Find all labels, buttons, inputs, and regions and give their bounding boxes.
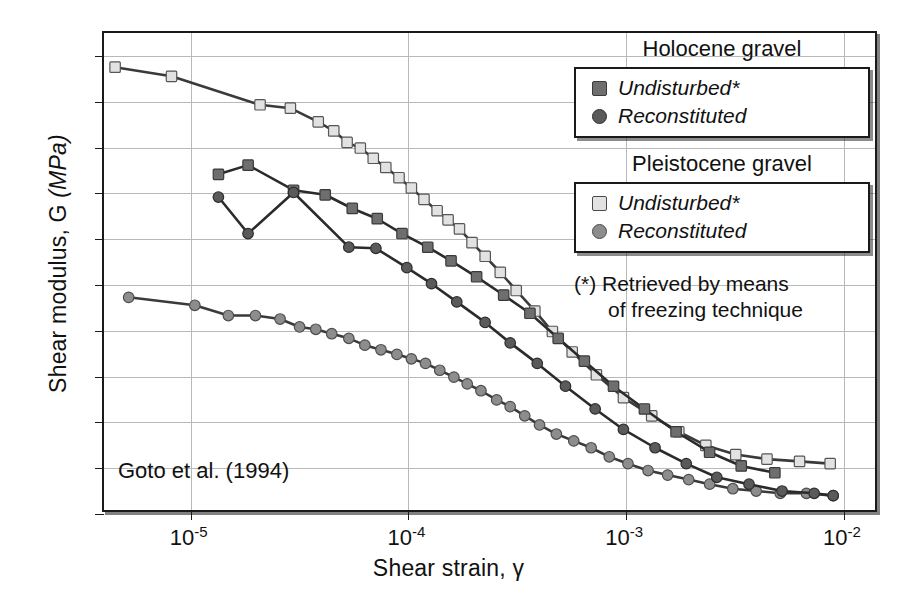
legend-group2-box: Undisturbed* Reconstituted [574, 182, 870, 253]
legend-item: Undisturbed* [592, 189, 868, 217]
y-axis-tick [95, 377, 104, 378]
data-point-circle [568, 436, 579, 447]
data-point-square [770, 468, 780, 478]
data-point-square [579, 356, 589, 366]
data-point-circle [223, 310, 234, 321]
data-point-circle [420, 358, 431, 369]
data-point-square [511, 285, 521, 295]
data-point-square [243, 160, 253, 170]
data-point-square [731, 449, 741, 459]
x-axis-tick-label: 10-4 [346, 524, 466, 549]
data-point-square [525, 308, 535, 318]
legend-item: Reconstituted [592, 102, 868, 130]
legend-group1-box: Undisturbed* Reconstituted [574, 67, 870, 138]
data-point-circle [828, 490, 839, 501]
data-point-circle [505, 338, 516, 349]
y-axis-tick [95, 468, 104, 469]
data-point-circle [213, 192, 224, 203]
data-point-circle [275, 314, 286, 325]
circle-marker-icon [592, 109, 607, 124]
data-point-circle [728, 483, 739, 494]
data-point-circle [326, 328, 337, 339]
y-axis-tick [95, 285, 104, 286]
y-axis-tick [95, 148, 104, 149]
data-point-square [608, 381, 618, 391]
data-point-circle [681, 458, 692, 469]
data-point-square [704, 447, 714, 457]
legend-footnote: (*) Retrieved by means of freezing techn… [574, 271, 870, 322]
data-point-circle [376, 344, 387, 355]
data-point-circle [505, 401, 516, 412]
data-point-square [480, 251, 490, 261]
legend-group2-title: Pleistocene gravel [574, 151, 870, 177]
data-point-circle [402, 262, 413, 273]
y-axis-tick [95, 193, 104, 194]
data-point-circle [449, 372, 460, 383]
x-axis-tick [408, 510, 409, 520]
data-point-circle [683, 474, 694, 485]
data-point-circle [491, 395, 502, 406]
y-axis-title-units: (MPa) [45, 134, 71, 198]
circle-marker-icon [592, 224, 607, 239]
data-point-square [285, 103, 295, 113]
data-point-circle [534, 420, 545, 431]
data-point-square [255, 100, 265, 110]
y-axis-tick [95, 422, 104, 423]
data-point-square [355, 143, 365, 153]
data-point-square [495, 267, 505, 277]
data-point-square [394, 172, 404, 182]
x-axis-tick-label: 10-3 [564, 524, 684, 549]
legend-footnote-line2: of freezing technique [574, 297, 870, 323]
data-point-circle [344, 333, 355, 344]
legend-item-label: Reconstituted [618, 219, 746, 243]
data-point-square [368, 153, 378, 163]
data-point-circle [532, 358, 543, 369]
data-point-square [432, 206, 442, 216]
legend-footnote-line1: (*) Retrieved by means [574, 272, 789, 295]
x-axis-tick-label: 10-5 [129, 524, 249, 549]
data-point-circle [618, 424, 629, 435]
data-point-circle [519, 411, 530, 422]
data-point-square [467, 237, 477, 247]
x-axis-tick-label: 10-2 [782, 524, 897, 549]
data-point-circle [650, 442, 661, 453]
y-axis-title-text: Shear modulus, G [45, 198, 71, 393]
data-point-circle [451, 297, 462, 308]
data-point-square [423, 242, 433, 252]
data-point-circle [360, 340, 371, 351]
legend-item-label: Undisturbed* [618, 76, 739, 100]
legend: Holocene gravel Undisturbed* Reconstitut… [574, 36, 870, 322]
data-point-circle [560, 381, 571, 392]
legend-item: Reconstituted [592, 217, 868, 245]
y-axis-tick [95, 239, 104, 240]
data-point-square [498, 290, 508, 300]
data-point-circle [294, 322, 305, 333]
data-point-square [329, 126, 339, 136]
data-point-circle [190, 300, 201, 311]
data-point-circle [643, 465, 654, 476]
data-point-circle [434, 365, 445, 376]
x-axis-title: Shear strain, γ [0, 555, 897, 582]
data-point-circle [476, 385, 487, 396]
legend-item-label: Reconstituted [618, 104, 746, 128]
data-point-circle [590, 404, 601, 415]
chart-figure: Shear modulus, G (MPa) Shear strain, γ G… [0, 0, 897, 599]
y-axis-title: Shear modulus, G (MPa) [45, 54, 72, 474]
data-point-circle [744, 479, 755, 490]
data-point-circle [123, 292, 134, 303]
x-axis-tick [191, 510, 192, 520]
data-point-circle [426, 278, 437, 289]
data-point-circle [604, 452, 615, 463]
data-point-square [762, 454, 772, 464]
x-axis-tick [626, 510, 627, 520]
x-axis-tick [844, 510, 845, 520]
source-annotation: Goto et al. (1994) [118, 458, 289, 484]
y-axis-tick [95, 102, 104, 103]
data-point-circle [480, 317, 491, 328]
y-axis-tick [95, 514, 104, 515]
data-point-square [671, 427, 681, 437]
square-marker-icon [592, 196, 607, 211]
data-point-circle [371, 243, 382, 254]
data-point-square [553, 333, 563, 343]
legend-group1-title: Holocene gravel [574, 36, 870, 62]
